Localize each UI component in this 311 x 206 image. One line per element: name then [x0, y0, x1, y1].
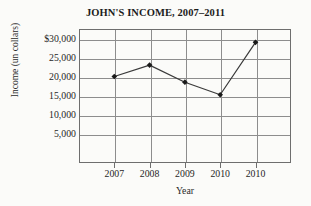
- y-axis-tick-label: 10,000: [18, 109, 76, 120]
- plot-area: [79, 29, 291, 163]
- y-axis-tick-labels: $30,00025,00020,00015,00010,0005,000: [16, 29, 76, 163]
- y-axis-tick-label: 25,000: [18, 52, 76, 63]
- y-axis-tick-label: 20,000: [18, 71, 76, 82]
- x-axis-tickmark: [150, 163, 151, 168]
- x-axis-tick-label: 2009: [165, 168, 205, 179]
- y-axis-tick-label: $30,000: [18, 33, 76, 44]
- chart-screenshot: JOHN'S INCOME, 2007–2011 Income (un coll…: [0, 0, 311, 206]
- gridline-vertical: [257, 30, 258, 162]
- x-axis-tick-label: 2010: [200, 168, 240, 179]
- x-axis-tick-labels: 20072008200920102010: [79, 168, 291, 182]
- x-axis-tick-label: 2007: [94, 168, 134, 179]
- y-axis-tick-label: 5,000: [18, 128, 76, 139]
- y-axis-tick-label: 15,000: [18, 90, 76, 101]
- gridline-vertical: [186, 30, 187, 162]
- x-axis-tick-label: 2008: [130, 168, 170, 179]
- chart-title: JOHN'S INCOME, 2007–2011: [0, 7, 311, 18]
- x-axis-tickmark: [114, 163, 115, 168]
- gridline-vertical: [115, 30, 116, 162]
- gridline-vertical: [151, 30, 152, 162]
- x-axis-tickmark: [185, 163, 186, 168]
- x-axis-title: Year: [79, 185, 291, 196]
- gridline-vertical: [221, 30, 222, 162]
- x-axis-tick-label: 2010: [236, 168, 276, 179]
- x-axis-tickmark: [256, 163, 257, 168]
- x-axis-tickmark: [220, 163, 221, 168]
